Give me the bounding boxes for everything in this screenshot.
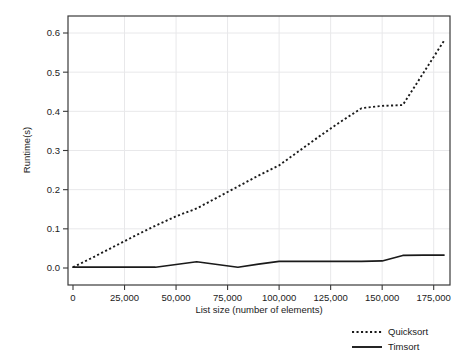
x-tick-label: 25,000 [110, 292, 139, 303]
y-axis-title: Runtime(s) [21, 127, 32, 173]
x-tick-label: 50,000 [162, 292, 191, 303]
runtime-comparison-chart: 0.00.10.20.30.40.50.6 025,00050,00075,00… [0, 0, 476, 360]
x-tick-label: 175,000 [417, 292, 451, 303]
y-tick-label: 0.5 [47, 67, 60, 78]
x-tick-label: 100,000 [262, 292, 296, 303]
y-tick-label: 0.0 [47, 262, 60, 273]
y-tick-label: 0.6 [47, 27, 60, 38]
x-axis-title: List size (number of elements) [195, 304, 322, 315]
y-tick-label: 0.1 [47, 223, 60, 234]
x-tick-label: 125,000 [313, 292, 347, 303]
y-tick-label: 0.4 [47, 106, 60, 117]
legend-label-timsort: Timsort [388, 341, 420, 352]
x-tick-label: 75,000 [213, 292, 242, 303]
y-tick-label: 0.3 [47, 145, 60, 156]
y-tick-label: 0.2 [47, 184, 60, 195]
x-tick-label: 150,000 [365, 292, 399, 303]
x-tick-label: 0 [70, 292, 75, 303]
legend-label-quicksort: Quicksort [388, 326, 428, 337]
